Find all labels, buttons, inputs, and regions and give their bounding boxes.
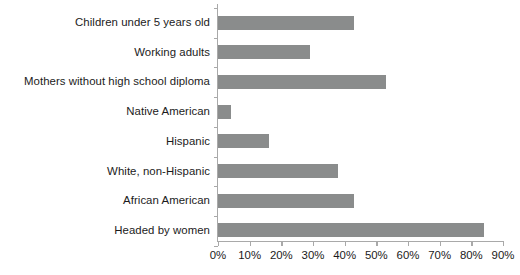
bar-row: Hispanic [0, 127, 520, 157]
category-label: African American [123, 186, 210, 216]
bar [218, 16, 354, 30]
bar-row: Headed by women [0, 216, 520, 246]
category-label: White, non-Hispanic [107, 157, 210, 187]
bar [218, 223, 484, 237]
bar-chart: Children under 5 years oldWorking adults… [0, 0, 520, 275]
bar [218, 164, 338, 178]
bar-row: African American [0, 186, 520, 216]
y-axis-tick [214, 67, 218, 68]
y-axis-tick [214, 97, 218, 98]
bar-row: Mothers without high school diploma [0, 67, 520, 97]
y-axis-tick [214, 8, 218, 9]
category-label: Mothers without high school diploma [24, 67, 210, 97]
category-label: Children under 5 years old [75, 8, 210, 38]
x-axis-tick-label: 90% [483, 249, 520, 261]
y-axis-tick [214, 216, 218, 217]
x-axis-tick [503, 242, 504, 246]
bar [218, 105, 231, 119]
category-label: Native American [126, 97, 210, 127]
bar [218, 45, 310, 59]
x-axis-tick [376, 242, 377, 246]
y-axis-tick [214, 38, 218, 39]
y-axis-tick [214, 186, 218, 187]
category-label: Headed by women [114, 216, 210, 246]
bar [218, 134, 269, 148]
bar-row: White, non-Hispanic [0, 157, 520, 187]
category-label: Working adults [134, 38, 210, 68]
bar-row: Children under 5 years old [0, 8, 520, 38]
y-axis-tick [214, 127, 218, 128]
bar-row: Native American [0, 97, 520, 127]
x-axis-tick [250, 242, 251, 246]
x-axis-tick [471, 242, 472, 246]
bar [218, 194, 354, 208]
x-axis-tick [313, 242, 314, 246]
y-axis-tick [214, 157, 218, 158]
x-axis-tick [345, 242, 346, 246]
x-axis-tick [281, 242, 282, 246]
x-axis-tick [440, 242, 441, 246]
bar-row: Working adults [0, 38, 520, 68]
x-axis-tick [218, 242, 219, 246]
category-label: Hispanic [166, 127, 210, 157]
x-axis-tick [408, 242, 409, 246]
bar [218, 75, 386, 89]
